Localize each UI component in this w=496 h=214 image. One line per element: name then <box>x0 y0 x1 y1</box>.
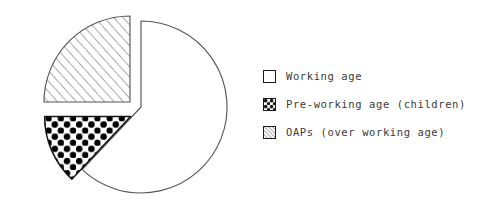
legend-label-working-age: Working age <box>286 70 362 83</box>
dotted-square-swatch-icon <box>263 98 276 111</box>
pie-slice-oaps <box>44 16 130 102</box>
plain-square-swatch-icon <box>263 70 276 83</box>
legend-item-pre-working-age: Pre-working age (children) <box>263 90 488 118</box>
legend: Working age Pre-working age (children) O… <box>263 62 488 146</box>
legend-label-pre-working-age: Pre-working age (children) <box>286 98 466 111</box>
legend-label-oaps: OAPs (over working age) <box>286 126 445 139</box>
hatched-square-swatch-icon <box>263 126 276 139</box>
legend-item-oaps: OAPs (over working age) <box>263 118 488 146</box>
pie-chart-figure: Working age Pre-working age (children) O… <box>0 0 496 214</box>
legend-item-working-age: Working age <box>263 62 488 90</box>
